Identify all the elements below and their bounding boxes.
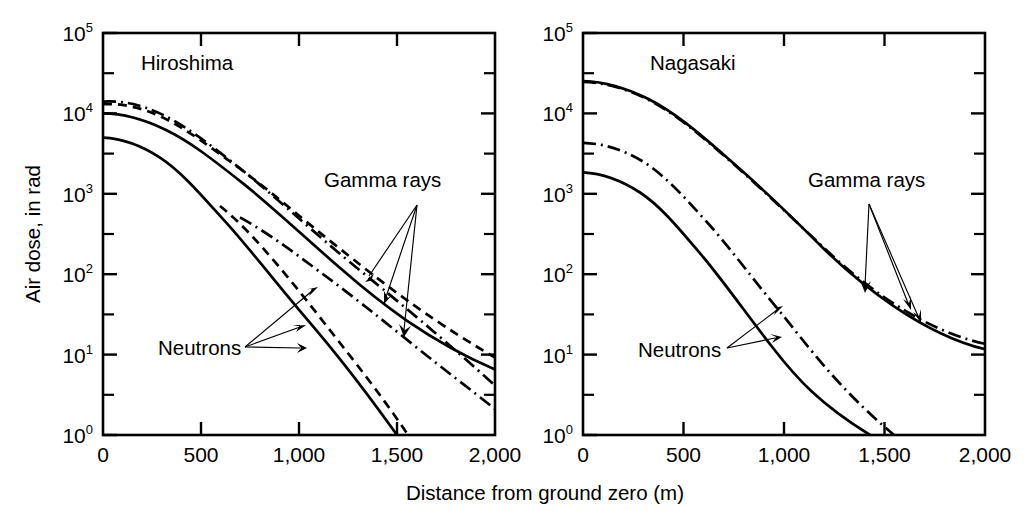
x-tick-label-2000-n: 2,000 <box>959 443 1012 466</box>
panel-title-hiroshima: Hiroshima <box>141 51 234 74</box>
curves-nagasaki <box>583 81 985 435</box>
arrowhead-gamma-h3 <box>399 324 411 337</box>
curve-nagasaki-gamma-solid <box>583 81 985 349</box>
annotation-gamma-label-hiroshima: Gamma rays <box>324 168 441 191</box>
y-tick-label-10-n: 101 <box>542 342 573 367</box>
x-tick-label-1500: 1,500 <box>371 443 424 466</box>
y-tick-label-100000-n: 105 <box>542 20 573 45</box>
x-tick-label-0-n: 0 <box>577 443 589 466</box>
x-tick-label-1000-n: 1,000 <box>758 443 811 466</box>
panel-nagasaki: 100 101 102 103 104 105 0 <box>542 20 1011 466</box>
y-tick-label-1-n: 100 <box>542 422 573 447</box>
y-tick-label-1000: 103 <box>62 181 93 206</box>
y-tick-label-100-n: 102 <box>542 261 573 286</box>
figure-container: Air dose, in rad Distance from ground ze… <box>0 0 1029 511</box>
y-tick-label-10000-n: 104 <box>542 100 573 125</box>
chart-svg: Air dose, in rad Distance from ground ze… <box>0 0 1029 511</box>
annotation-neutron-label-nagasaki: Neutrons <box>638 338 721 361</box>
y-axis-title-text: Air dose, in rad <box>21 165 44 303</box>
annotation-neutron-label-hiroshima: Neutrons <box>158 336 241 359</box>
y-tick-label-10: 101 <box>62 342 93 367</box>
panel-title-nagasaki: Nagasaki <box>650 51 735 74</box>
x-tick-label-500-n: 500 <box>666 443 701 466</box>
x-tick-label-1000: 1,000 <box>273 443 326 466</box>
y-ticks-nagasaki <box>583 33 985 435</box>
y-tick-label-100: 102 <box>62 261 93 286</box>
x-tick-label-1500-n: 1,500 <box>858 443 911 466</box>
plot-frame-nagasaki <box>583 33 985 435</box>
panel-hiroshima: 100 101 102 103 104 105 <box>62 20 521 466</box>
annotation-neutron-hiroshima: Neutrons <box>158 287 318 359</box>
x-ticks-nagasaki <box>684 33 885 435</box>
curves-hiroshima <box>103 101 495 435</box>
x-tick-label-2000: 2,000 <box>469 443 522 466</box>
y-ticks-hiroshima <box>103 33 495 435</box>
x-tick-label-0: 0 <box>97 443 109 466</box>
curve-nagasaki-gamma-dashdot <box>583 82 985 344</box>
y-tick-label-10000: 104 <box>62 100 93 125</box>
x-tick-labels-nagasaki: 0 500 1,000 1,500 2,000 <box>577 443 1011 466</box>
x-tick-label-500: 500 <box>183 443 218 466</box>
x-ticks-hiroshima <box>201 33 397 435</box>
x-tick-labels-hiroshima: 0 500 1,000 1,500 2,000 <box>97 443 521 466</box>
y-axis-title: Air dose, in rad <box>21 165 44 303</box>
y-tick-label-1000-n: 103 <box>542 181 573 206</box>
annotation-gamma-hiroshima: Gamma rays <box>324 168 441 337</box>
y-tick-label-1: 100 <box>62 422 93 447</box>
plot-frame-hiroshima <box>103 33 495 435</box>
y-tick-label-100000: 105 <box>62 20 93 45</box>
y-tick-labels-hiroshima: 100 101 102 103 104 105 <box>62 20 93 447</box>
curve-hiroshima-gamma-solid <box>103 113 495 369</box>
curve-nagasaki-neutron-solid <box>583 172 870 435</box>
curve-hiroshima-neutron-dashed <box>220 206 408 435</box>
annotation-gamma-nagasaki: Gamma rays <box>808 168 925 323</box>
annotation-gamma-label-nagasaki: Gamma rays <box>808 168 925 191</box>
y-tick-labels-nagasaki: 100 101 102 103 104 105 <box>542 20 573 447</box>
x-axis-title-text: Distance from ground zero (m) <box>406 481 684 504</box>
